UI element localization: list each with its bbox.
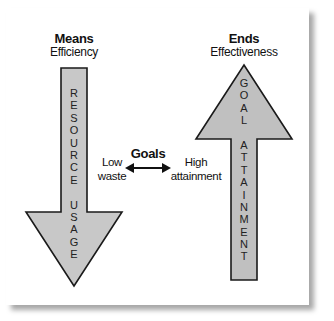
- high-attainment-line2: attainment: [171, 169, 222, 183]
- arrow-letter: C: [70, 161, 78, 173]
- arrow-letter: [242, 127, 245, 139]
- arrow-letter: A: [240, 102, 247, 114]
- means-arrow-text: RESOURCE USAGE: [70, 87, 79, 260]
- arrow-letter: E: [240, 226, 247, 238]
- means-subtitle: Efficiency: [50, 45, 98, 59]
- arrow-letter: A: [240, 139, 247, 151]
- arrow-letter: T: [241, 250, 248, 262]
- arrow-letter: N: [240, 201, 248, 213]
- arrow-letter: [72, 186, 75, 198]
- arrow-letter: E: [70, 99, 77, 111]
- arrow-letter: L: [241, 114, 247, 126]
- arrow-letter: G: [70, 236, 79, 248]
- goals-label: Goals: [131, 146, 166, 161]
- high-attainment-label: High attainment: [171, 155, 222, 183]
- arrow-letter: E: [70, 248, 77, 260]
- arrow-letter: N: [240, 238, 248, 250]
- low-waste-line1: Low: [98, 155, 127, 169]
- low-waste-line2: waste: [98, 169, 127, 183]
- arrow-letter: T: [241, 151, 248, 163]
- arrow-letter: M: [239, 213, 248, 225]
- arrow-letter: R: [70, 87, 78, 99]
- arrow-letter: A: [240, 176, 247, 188]
- means-title: Means: [55, 31, 94, 46]
- ends-arrow-text: GOAL ATTAINMENT: [239, 77, 248, 263]
- low-waste-label: Low waste: [98, 155, 127, 183]
- arrow-letter: R: [70, 149, 78, 161]
- arrow-letter: A: [70, 223, 77, 235]
- arrow-letter: O: [240, 89, 249, 101]
- arrow-letter: T: [241, 164, 248, 176]
- arrow-letter: U: [70, 137, 78, 149]
- ends-title: Ends: [229, 31, 260, 46]
- arrow-letter: S: [70, 112, 77, 124]
- arrow-letter: E: [70, 174, 77, 186]
- arrow-letter: O: [70, 124, 79, 136]
- arrow-letter: G: [240, 77, 249, 89]
- double-arrow-icon: [125, 163, 171, 173]
- high-attainment-line1: High: [171, 155, 222, 169]
- arrow-letter: S: [70, 211, 77, 223]
- ends-subtitle: Effectiveness: [210, 45, 277, 59]
- arrow-letter: I: [242, 189, 245, 201]
- arrow-letter: U: [70, 199, 78, 211]
